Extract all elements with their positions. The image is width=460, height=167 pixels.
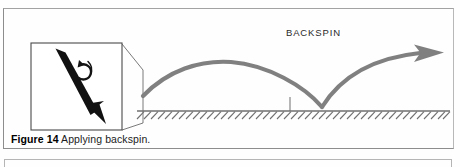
ground-surface — [137, 111, 450, 119]
figure-caption: Figure 14 Applying backspin. — [11, 133, 150, 146]
figure-page: BACKSPIN Figure 14 Applying backspin. — [0, 0, 460, 167]
callout-wedge — [122, 44, 143, 130]
ball-trajectory — [143, 45, 444, 108]
ground-hatching — [137, 112, 450, 119]
figure-caption-text: Applying backspin. — [59, 133, 151, 145]
inset-box — [31, 43, 122, 130]
figure-caption-number: Figure 14 — [11, 133, 59, 145]
backspin-label: BACKSPIN — [286, 27, 341, 38]
